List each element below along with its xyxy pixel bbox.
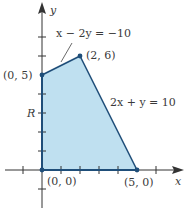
vertex-dot-2-6 bbox=[78, 54, 83, 59]
constraint-label-1: x − 2y = −10 bbox=[56, 27, 131, 40]
constraint-leader-line bbox=[61, 43, 72, 62]
vertex-dot-origin bbox=[40, 168, 45, 173]
vertex-dot-5-0 bbox=[135, 168, 140, 173]
feasible-region bbox=[42, 56, 137, 170]
vertex-label-2-6: (2, 6) bbox=[86, 49, 116, 62]
region-label: R bbox=[26, 107, 35, 120]
x-axis-label: x bbox=[175, 175, 182, 188]
vertex-label-0-5: (0, 5) bbox=[3, 69, 33, 82]
vertex-dot-0-5 bbox=[40, 73, 45, 78]
constraint-label-2: 2x + y = 10 bbox=[110, 96, 176, 109]
feasible-region-diagram: y x x − 2y = −10 2x + y = 10 (2, 6) (0, … bbox=[0, 0, 185, 210]
vertex-label-5-0: (5, 0) bbox=[124, 176, 154, 189]
y-axis-label: y bbox=[49, 4, 57, 17]
vertex-label-origin: (0, 0) bbox=[47, 175, 77, 188]
